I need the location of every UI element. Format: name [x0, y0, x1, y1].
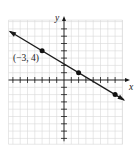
grid-lines [9, 20, 123, 144]
axes [9, 16, 130, 141]
chart-svg: x y (−3, 4) [0, 0, 137, 149]
data-point [76, 70, 81, 75]
point-label: (−3, 4) [13, 53, 39, 64]
x-axis-label: x [128, 82, 134, 92]
line-arrow-left-icon [9, 31, 17, 37]
data-point [40, 48, 45, 53]
y-axis-arrow-icon [62, 16, 66, 21]
line-arrow-right-icon [117, 95, 125, 101]
coordinate-plane-chart: x y (−3, 4) [0, 0, 137, 149]
y-axis-label: y [54, 13, 60, 23]
data-point [113, 92, 118, 97]
